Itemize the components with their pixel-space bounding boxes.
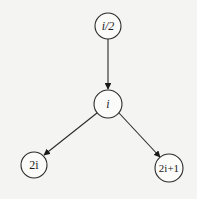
node-left-child-label: 2i — [29, 158, 39, 172]
node-parent-label: i/2 — [102, 19, 115, 33]
node-parent: i/2 — [95, 13, 121, 39]
node-current: i — [94, 90, 122, 118]
node-right-child-label: 2i+1 — [159, 162, 179, 174]
node-left-child: 2i — [21, 152, 47, 178]
tree-diagram: i/2 i 2i 2i+1 — [0, 0, 197, 199]
node-right-child: 2i+1 — [155, 154, 183, 182]
node-current-label: i — [106, 97, 109, 111]
edge-current-to-right-child — [119, 113, 160, 157]
edge-current-to-left-child — [44, 113, 97, 155]
